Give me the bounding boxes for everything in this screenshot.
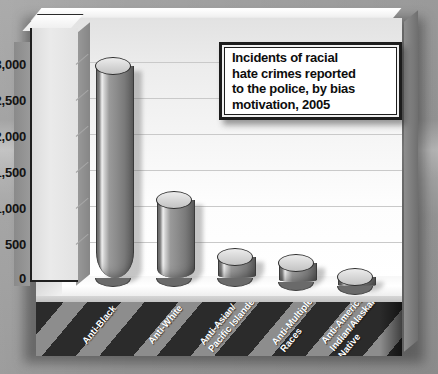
- chart-title-callout: Incidents of racialhate crimes reportedt…: [219, 42, 402, 120]
- bar-body: [157, 200, 195, 278]
- gridline-1500: [38, 170, 402, 171]
- chart-title-inner-frame: Incidents of racialhate crimes reportedt…: [222, 45, 399, 117]
- y-axis-tick-1000: 1,000: [0, 202, 26, 215]
- value-axis-face: [30, 28, 78, 282]
- y-axis-tick-500: 500: [0, 238, 26, 251]
- bar-anti-black[interactable]: [96, 66, 132, 278]
- bar-top-ellipse: [337, 268, 373, 286]
- bar-body: [96, 66, 134, 278]
- bar-anti-asian-pacific-islander[interactable]: [218, 257, 254, 278]
- y-axis-tick-0: 0: [0, 272, 26, 285]
- gridline-1000: [38, 206, 402, 207]
- chart-title-text: Incidents of racialhate crimes reportedt…: [224, 50, 364, 112]
- bar-top-ellipse: [95, 57, 131, 75]
- category-axis-band: Anti-Black Anti-White Anti-Asian/ Pacifi…: [36, 302, 402, 356]
- chart-slab-right-bevel: [404, 10, 418, 352]
- y-axis-tick-3000: 3,000: [0, 58, 26, 71]
- gridline-500: [38, 242, 402, 243]
- bar-chart-figure: 3,000 2,500 2,000 1,500 1,000 500 0 Anti…: [14, 8, 418, 356]
- bar-top-ellipse: [156, 191, 192, 209]
- y-axis-tick-1500: 1,500: [0, 166, 26, 179]
- bar-top-ellipse: [278, 254, 314, 272]
- y-axis-tick-2000: 2,000: [0, 130, 26, 143]
- value-axis: 3,000 2,500 2,000 1,500 1,000 500 0: [14, 14, 88, 286]
- y-axis-tick-2500: 2,500: [0, 94, 26, 107]
- bar-anti-american-indian-alaskan-native[interactable]: [338, 277, 374, 286]
- bar-anti-multiple-races[interactable]: [279, 263, 315, 282]
- bar-top-ellipse: [217, 248, 253, 266]
- bar-anti-white[interactable]: [157, 200, 193, 278]
- gridline-2000: [38, 134, 402, 135]
